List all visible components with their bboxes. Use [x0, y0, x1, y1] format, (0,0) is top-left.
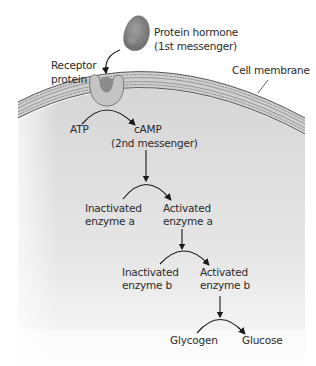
inactivated-enzyme-a-label-line2: enzyme a [85, 215, 135, 228]
first-messenger-label: (1st messenger) [154, 40, 237, 53]
camp-label: cAMP [134, 123, 162, 136]
atp-label: ATP [70, 123, 89, 136]
receptor-label: Receptor [51, 59, 96, 72]
activated-enzyme-a-label: Activated [163, 202, 211, 215]
protein-hormone-icon [124, 16, 150, 51]
activated-enzyme-a-label-line2: enzyme a [163, 215, 213, 228]
inactivated-enzyme-b-label: Inactivated [122, 266, 179, 279]
hormone-label: Protein hormone [154, 26, 238, 39]
receptor-label-line2: protein [51, 73, 87, 86]
activated-enzyme-b-label: Activated [200, 266, 248, 279]
glycogen-label: Glycogen [170, 334, 218, 347]
hormone-binding-arrow [106, 50, 120, 72]
diagram-canvas [0, 0, 316, 366]
cell-membrane-label: Cell membrane [232, 64, 310, 77]
inactivated-enzyme-a-label: Inactivated [85, 202, 142, 215]
glucose-label: Glucose [242, 334, 282, 347]
second-messenger-label: (2nd messenger) [111, 137, 198, 150]
inactivated-enzyme-b-label-line2: enzyme b [122, 279, 172, 292]
activated-enzyme-b-label-line2: enzyme b [200, 279, 250, 292]
cell-membrane-pointer [258, 80, 268, 93]
